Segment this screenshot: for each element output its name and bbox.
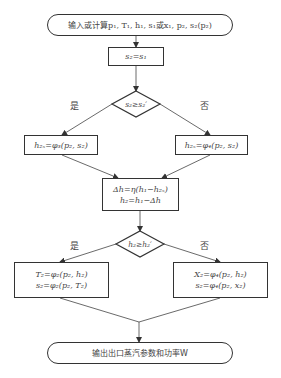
right-enthalpy-text: h₂ₛ=φ₄(p₂, s₂) <box>185 140 239 151</box>
right-wet-steam-box: X₂=φ₄(p₂, h₂) s₂=φ₄(p₂, x₂) <box>173 262 268 298</box>
no-label-2: 否 <box>200 239 209 252</box>
right-wet-steam-line2: s₂=φ₄(p₂, x₂) <box>195 280 245 291</box>
decision-2-text-container: h₂≥h₂′ <box>116 237 164 251</box>
delta-h-line1: Δh=η(h₁−h₂ₛ) <box>113 184 168 195</box>
right-wet-steam-line1: X₂=φ₄(p₂, h₂) <box>194 269 246 280</box>
yes-label-2: 是 <box>70 239 79 252</box>
left-superheated-box: T₂=φ₂(p₂, h₂) s₂=φ₂(p₂, T₂) <box>14 262 109 298</box>
left-superheated-line2: s₂=φ₂(p₂, T₂) <box>36 280 87 291</box>
left-enthalpy-box: h₂ₛ=φ₃(p₂, s₂) <box>24 135 98 155</box>
start-text: 输入或计算p₁, T₁, h₁, s₁或x₁, p₂, s₂(p₂) <box>68 20 212 31</box>
end-text: 输出出口蒸汽参数和功率W <box>92 348 188 359</box>
assign-s2-box: s₂=s₁ <box>108 47 164 66</box>
decision-1-text-container: s₂≥s₂′ <box>112 97 160 111</box>
start-terminal: 输入或计算p₁, T₁, h₁, s₁或x₁, p₂, s₂(p₂) <box>47 14 233 36</box>
assign-s2-text: s₂=s₁ <box>125 51 146 62</box>
left-superheated-line1: T₂=φ₂(p₂, h₂) <box>35 269 87 280</box>
no-label-1: 否 <box>200 99 209 112</box>
left-enthalpy-text: h₂ₛ=φ₃(p₂, s₂) <box>34 140 88 151</box>
delta-h-line2: h₂=h₁−Δh <box>120 195 161 206</box>
delta-h-box: Δh=η(h₁−h₂ₛ) h₂=h₁−Δh <box>102 178 179 211</box>
decision-1-text: s₂≥s₂′ <box>125 99 147 110</box>
end-terminal: 输出出口蒸汽参数和功率W <box>47 342 233 364</box>
decision-2-text: h₂≥h₂′ <box>128 239 152 250</box>
right-enthalpy-box: h₂ₛ=φ₄(p₂, s₂) <box>175 135 248 155</box>
yes-label-1: 是 <box>70 99 79 112</box>
